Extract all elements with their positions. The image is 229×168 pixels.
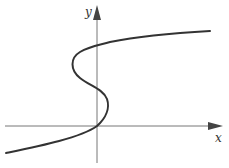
s-curve bbox=[6, 31, 210, 153]
y-axis-label: y bbox=[84, 5, 92, 19]
x-axis-label: x bbox=[215, 131, 222, 145]
x-axis-arrowhead-icon bbox=[208, 122, 223, 130]
y-axis-arrowhead-icon bbox=[93, 5, 101, 20]
diagram-canvas: y x bbox=[0, 0, 229, 168]
